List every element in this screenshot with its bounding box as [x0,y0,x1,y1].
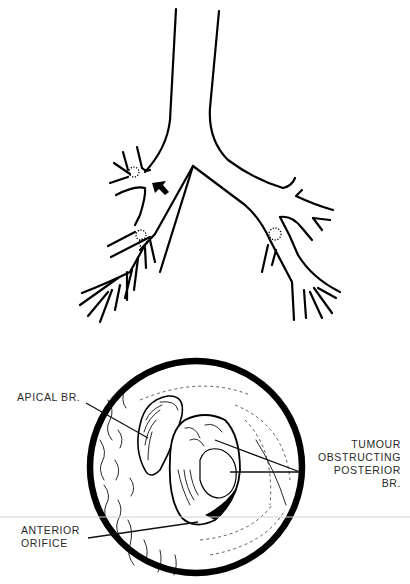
label-tumour-line1: TUMOUR [351,438,401,450]
trachea-left-wall [145,9,176,172]
label-tumour-line3: POSTERIOR [334,464,401,476]
label-tumour-line4: BR. [382,477,401,489]
label-anterior-line2: ORIFICE [21,537,68,549]
label-tumour-line2: OBSTRUCTING [318,451,401,463]
label-anterior-line1: ANTERIOR [21,524,80,536]
trachea-right-wall [210,11,283,188]
arrow-icon [152,181,169,195]
dotted-circle-mid-left [136,230,146,240]
label-apical-bronchus: APICAL BR. [17,391,80,403]
dotted-circle-upper-left [129,167,139,177]
tumour-mass [170,415,240,525]
diagram-canvas: APICAL BR. TUMOUR OBSTRUCTING POSTERIOR … [0,0,410,584]
bronchial-tree [80,9,340,322]
dotted-circle-right [269,228,281,240]
